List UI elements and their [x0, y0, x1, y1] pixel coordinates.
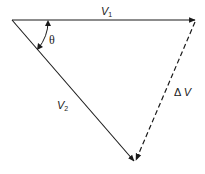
v2-label: V2 — [57, 100, 68, 112]
v1-label: V1 — [101, 6, 112, 18]
theta-label: θ — [49, 34, 55, 46]
vector-diagram: V1 θ V2 Δ V — [0, 0, 205, 174]
v2-vector-line — [12, 20, 134, 161]
delta-v-label: Δ V — [174, 87, 191, 98]
